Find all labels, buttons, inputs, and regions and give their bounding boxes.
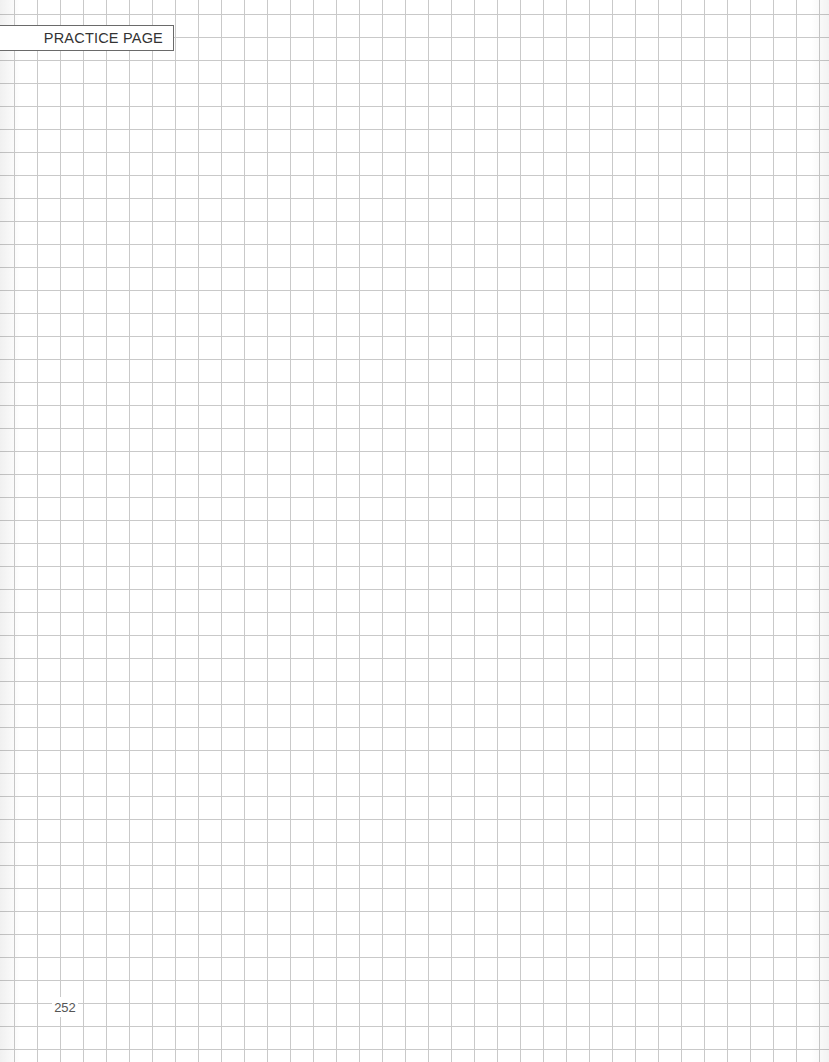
page-number: 252 — [52, 997, 78, 1017]
practice-page-label: PRACTICE PAGE — [0, 25, 174, 51]
page-edge-shadow — [0, 0, 829, 1062]
grid-paper: PRACTICE PAGE 252 — [0, 0, 829, 1062]
page-title: PRACTICE PAGE — [44, 30, 163, 46]
